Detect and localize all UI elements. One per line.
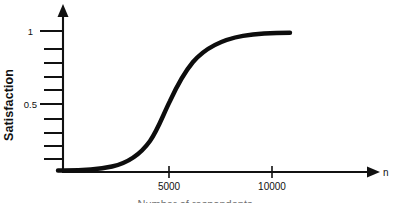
x-axis-caption: Number of respondents [138,198,253,203]
satisfaction-chart-figure: 1 0.5 5000 10000 n Satisfaction Number o… [0,0,395,203]
x-axis-arrow-icon [367,167,380,178]
y-tick-label-1: 1 [28,26,33,37]
x-axis-label: n [383,167,389,178]
x-axis-caption-svg: Number of respondents [0,196,395,203]
x-tick-label-5000: 5000 [158,181,181,192]
chart-canvas: 1 0.5 5000 10000 n Satisfaction [0,0,395,203]
y-tick-label-0-5: 0.5 [24,99,37,110]
y-axis-arrow-icon [58,4,69,17]
x-tick-label-10000: 10000 [258,181,286,192]
satisfaction-curve [58,33,290,171]
x-axis-caption-wrapper: Number of respondents [0,196,395,203]
y-axis-major-ticks [40,31,62,104]
y-axis-label: Satisfaction [2,69,16,141]
